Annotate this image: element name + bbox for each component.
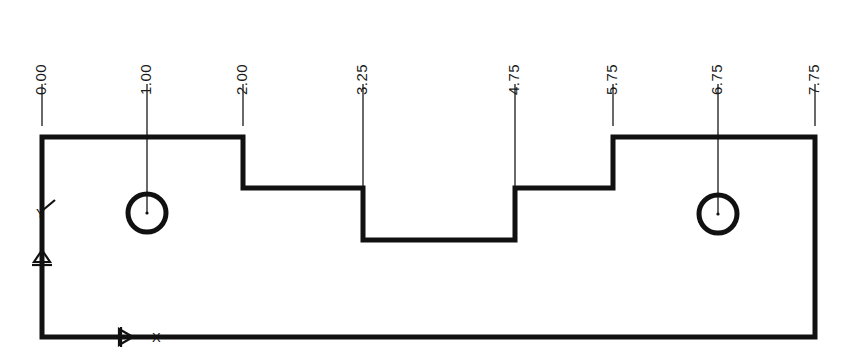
dimension-label-1-00: 1.00 (137, 64, 154, 95)
cad-vector-layer (0, 0, 850, 362)
left-hole-center-mark (145, 211, 148, 214)
dimension-label-0-00: 0.00 (32, 64, 49, 95)
x-axis-label: X (152, 330, 161, 345)
dimension-label-4-75: 4.75 (505, 64, 522, 95)
y-axis-label: Y (36, 206, 45, 221)
hole-features (128, 194, 737, 233)
dimension-label-3-25: 3.25 (353, 64, 370, 95)
technical-drawing-canvas: 0.001.002.003.254.755.756.757.75 Y X (0, 0, 850, 362)
right-hole-center-mark (716, 212, 719, 215)
dimension-label-7-75: 7.75 (805, 64, 822, 95)
datum-axis-markers (32, 200, 133, 347)
dimension-label-2-00: 2.00 (233, 64, 250, 95)
part-outline-profile (42, 137, 815, 337)
dimension-label-6-75: 6.75 (708, 64, 725, 95)
dimension-label-5-75: 5.75 (603, 64, 620, 95)
